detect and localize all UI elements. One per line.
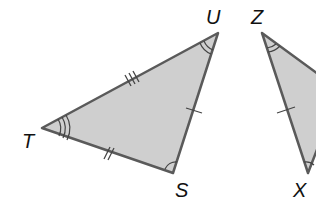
- vertex-label-s: S: [175, 179, 189, 201]
- vertex-label-u: U: [206, 6, 221, 28]
- vertex-label-x: X: [292, 179, 307, 201]
- congruent-triangles-diagram: T U S Z X: [0, 0, 316, 206]
- triangle-zx-partial: [262, 33, 316, 173]
- vertex-label-z: Z: [250, 6, 264, 28]
- triangle-tus: [42, 33, 218, 173]
- vertex-label-t: T: [22, 130, 36, 152]
